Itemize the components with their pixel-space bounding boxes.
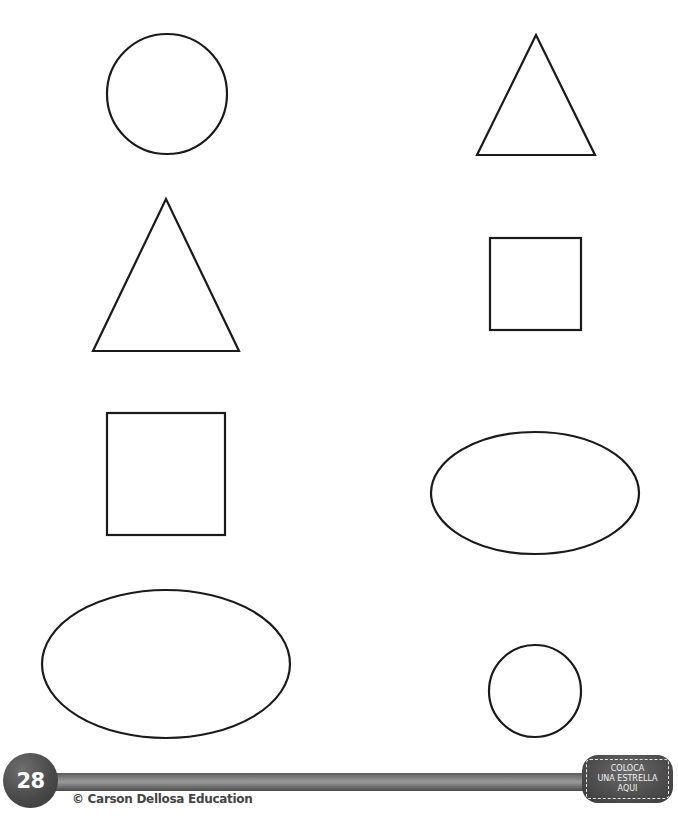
star-box-line-2: UNA ESTRELLA [597, 774, 657, 784]
triangle-small-shape [477, 35, 595, 155]
circle-small-shape [489, 645, 581, 737]
star-box-line-3: AQUI [618, 784, 638, 794]
star-sticker-box[interactable]: COLOCA UNA ESTRELLA AQUI [582, 755, 673, 803]
copyright-text: © Carson Dellosa Education [72, 792, 252, 806]
page-number-badge: 28 [3, 753, 58, 808]
square-large-shape [107, 413, 225, 535]
shapes-canvas [0, 0, 678, 833]
star-box-line-1: COLOCA [611, 764, 644, 774]
square-small-shape [490, 238, 581, 330]
footer-bar [50, 773, 590, 791]
triangle-large-shape [93, 199, 239, 351]
star-sticker-box-inner: COLOCA UNA ESTRELLA AQUI [586, 759, 669, 799]
page-number: 28 [16, 769, 44, 793]
oval-large-shape [42, 590, 290, 738]
circle-large-shape [107, 34, 227, 154]
oval-small-shape [431, 432, 639, 554]
